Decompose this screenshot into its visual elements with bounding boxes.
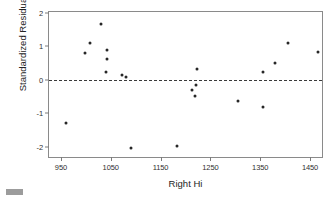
data-point (104, 71, 107, 74)
data-point (64, 121, 67, 124)
scatter-plot-figure: 210-1-2 95010501150125013501450 Right Hi… (0, 0, 330, 199)
y-axis-tick (45, 113, 49, 114)
x-axis-tick (111, 157, 112, 161)
y-axis-tick-label: 2 (39, 9, 43, 18)
x-axis-tick (61, 157, 62, 161)
plot-area: 210-1-2 95010501150125013501450 (48, 11, 323, 158)
y-axis-tick (45, 13, 49, 14)
x-axis-tick (210, 157, 211, 161)
data-point (262, 105, 265, 108)
y-axis-tick-label: 0 (39, 75, 43, 84)
data-point (88, 42, 91, 45)
data-point (193, 95, 196, 98)
data-point (317, 51, 320, 54)
data-point (274, 62, 277, 65)
x-axis-tick-label: 1350 (252, 163, 268, 172)
data-point (195, 68, 198, 71)
y-axis-tick-label: -1 (37, 109, 43, 118)
data-point (105, 57, 108, 60)
y-axis-tick-label: -2 (37, 142, 43, 151)
x-axis-title: Right Hi (48, 178, 323, 189)
data-point (194, 83, 197, 86)
data-point (105, 49, 108, 52)
x-axis-tick-label: 1450 (302, 163, 318, 172)
x-axis-tick (260, 157, 261, 161)
data-point (176, 144, 179, 147)
data-point (125, 75, 128, 78)
data-point (120, 74, 123, 77)
x-axis-tick (161, 157, 162, 161)
data-point (236, 99, 239, 102)
data-point (99, 23, 102, 26)
y-axis-tick (45, 46, 49, 47)
x-axis-tick-label: 1150 (153, 163, 169, 172)
x-axis-tick (310, 157, 311, 161)
data-points-layer (49, 12, 322, 157)
y-axis-tick (45, 146, 49, 147)
data-point (190, 88, 193, 91)
data-point (287, 42, 290, 45)
x-axis-tick-label: 950 (55, 163, 67, 172)
y-axis-tick (45, 79, 49, 80)
x-axis-tick-label: 1250 (202, 163, 218, 172)
y-axis-title: Standardized Residual (17, 0, 28, 119)
corner-artifact-mark (6, 189, 23, 195)
data-point (83, 52, 86, 55)
y-axis-tick-label: 1 (39, 42, 43, 51)
data-point (129, 146, 132, 149)
x-axis-tick-label: 1050 (103, 163, 119, 172)
data-point (262, 71, 265, 74)
